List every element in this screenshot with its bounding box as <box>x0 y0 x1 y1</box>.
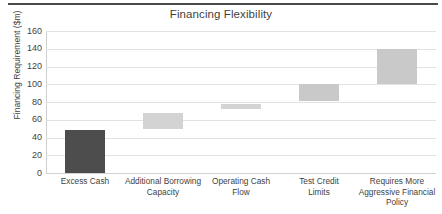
category-label-line: Capacity <box>118 187 208 198</box>
y-tick-label: 160 <box>2 27 42 36</box>
category-label-line: Limits <box>274 187 364 198</box>
category-label: Operating CashFlow <box>196 176 286 197</box>
category-label-line: Test Credit <box>274 176 364 187</box>
chart-title: Financing Flexibility <box>0 8 442 20</box>
y-tick-label: 40 <box>2 133 42 142</box>
bar-2[interactable] <box>143 31 183 173</box>
x-axis-category-labels: Excess CashAdditional BorrowingCapacityO… <box>46 176 442 214</box>
gridline <box>46 173 436 174</box>
category-label-line: Additional Borrowing <box>118 176 208 187</box>
bar-body <box>299 84 339 101</box>
category-label: Additional BorrowingCapacity <box>118 176 208 197</box>
bar-5[interactable] <box>377 31 417 173</box>
y-axis-tick-labels: 020406080100120140160 <box>0 31 42 173</box>
category-label: Requires MoreAggressive FinancialPolicy <box>352 176 442 208</box>
y-tick-label: 120 <box>2 62 42 71</box>
category-label: Excess Cash <box>40 176 130 187</box>
category-label-line: Operating Cash <box>196 176 286 187</box>
bar-body <box>221 104 261 109</box>
bar-arrow-head <box>377 34 417 64</box>
y-tick-label: 0 <box>2 169 42 178</box>
category-label-line: Aggressive Financial <box>352 187 442 198</box>
category-label-line: Requires More <box>352 176 442 187</box>
y-tick-label: 20 <box>2 151 42 160</box>
bar-4[interactable] <box>299 31 339 173</box>
y-tick-label: 80 <box>2 98 42 107</box>
header-divider <box>8 3 438 5</box>
category-label-line: Policy <box>352 197 442 208</box>
bar-body <box>143 113 183 129</box>
plot-area <box>46 31 436 173</box>
bar-body <box>65 130 105 173</box>
category-label-line: Flow <box>196 187 286 198</box>
financing-flexibility-chart: Financing Flexibility Financing Requirem… <box>0 0 442 214</box>
category-label-line: Excess Cash <box>40 176 130 187</box>
bar-3[interactable] <box>221 31 261 173</box>
category-label: Test CreditLimits <box>274 176 364 197</box>
bar-1[interactable] <box>65 31 105 173</box>
y-tick-label: 100 <box>2 80 42 89</box>
y-tick-label: 60 <box>2 115 42 124</box>
y-tick-label: 140 <box>2 44 42 53</box>
